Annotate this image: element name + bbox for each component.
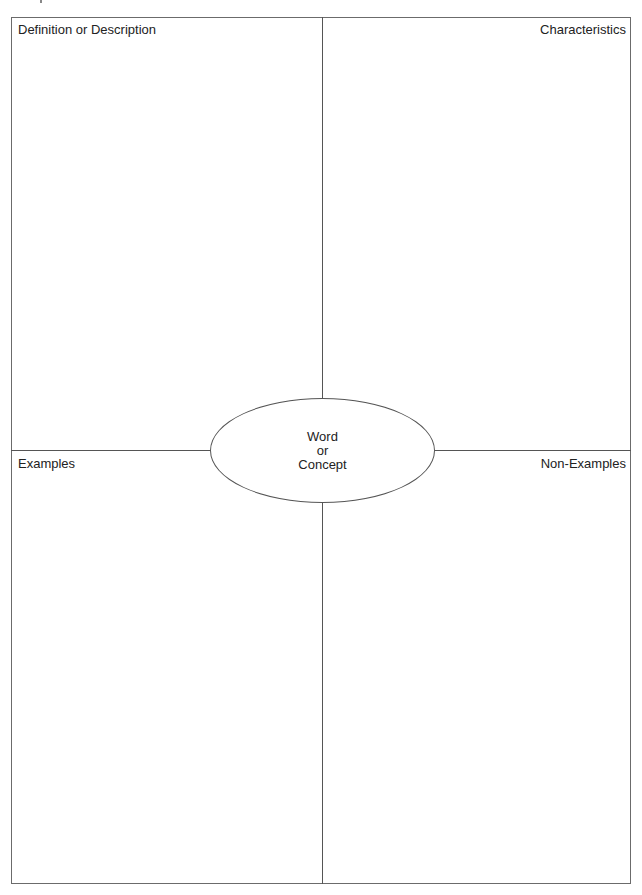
horizontal-divider-right (435, 450, 631, 451)
quadrant-label-definition: Definition or Description (18, 22, 156, 37)
vertical-divider-top (322, 17, 323, 398)
quadrant-label-examples: Examples (18, 456, 75, 471)
vertical-divider-bottom (322, 480, 323, 884)
center-concept-text: Concept (298, 458, 346, 472)
quadrant-label-non-examples: Non-Examples (541, 456, 626, 471)
center-or-text: or (317, 444, 329, 458)
horizontal-divider-left (11, 450, 210, 451)
quadrant-label-characteristics: Characteristics (540, 22, 626, 37)
center-concept-ellipse: Word or Concept (210, 398, 435, 503)
stray-mark (40, 0, 42, 3)
center-word-text: Word (307, 430, 338, 444)
